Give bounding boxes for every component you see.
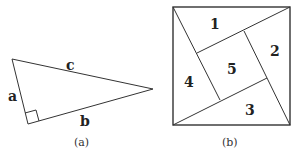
caption-a: (a)	[74, 136, 89, 149]
region-3-label: 3	[245, 102, 255, 118]
side-a-label: a	[8, 88, 17, 104]
region-2-label: 2	[270, 43, 280, 59]
caption-b: (b)	[222, 136, 238, 149]
region-1-label: 1	[210, 16, 220, 32]
region-5-label: 5	[227, 61, 237, 77]
side-c-label: c	[66, 57, 75, 73]
region-4-label: 4	[184, 74, 194, 90]
side-b-label: b	[80, 113, 90, 129]
figure-b-square-dissection: 1 2 3 4 5 (b)	[173, 7, 290, 149]
pythagorean-diagram: a c b (a) 1 2 3 4 5 (b)	[0, 0, 298, 159]
figure-a-right-triangle: a c b (a)	[8, 57, 153, 149]
